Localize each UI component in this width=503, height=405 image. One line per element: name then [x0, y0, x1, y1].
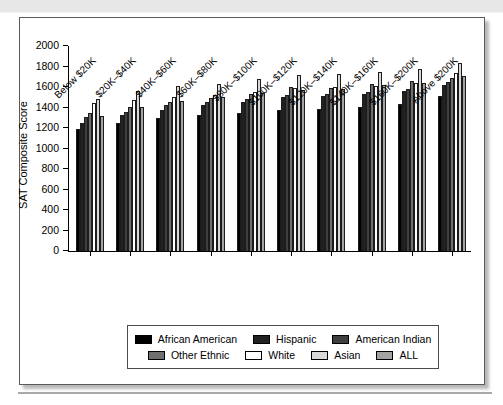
bar-group-20k-40k: $20K–$40K — [116, 46, 144, 251]
plot-area: Below $20K$20K–$40K$40K–$60K$60K–$80K$80… — [68, 46, 471, 252]
legend-swatch-icon — [135, 335, 152, 344]
legend-label: Other Ethnic — [171, 350, 229, 361]
bar-group-60k-80k: $60K–$80K — [197, 46, 225, 251]
legend-item-asian: Asian — [311, 350, 360, 361]
y-tick-label: 200 — [25, 225, 59, 236]
cropped-caption-strip — [0, 0, 503, 13]
bar-all — [341, 89, 345, 251]
bar-all — [221, 97, 225, 251]
legend-label: African American — [158, 334, 237, 345]
legend-item-other-ethnic: Other Ethnic — [148, 350, 229, 361]
legend-label: ALL — [399, 350, 418, 361]
x-tick-mark — [452, 252, 453, 256]
legend-row: Other EthnicWhiteAsianALL — [148, 350, 418, 361]
bar-all — [180, 101, 184, 251]
x-tick-mark — [130, 252, 131, 256]
bar-group-above-200k: Above $200K — [438, 46, 466, 251]
legend-swatch-icon — [376, 351, 393, 360]
legend-swatch-icon — [245, 351, 262, 360]
x-tick-mark — [372, 252, 373, 256]
legend-item-all: ALL — [376, 350, 418, 361]
x-tick-mark — [170, 252, 171, 256]
bar-groups: Below $20K$20K–$40K$40K–$60K$60K–$80K$80… — [69, 46, 471, 251]
bar-all — [140, 107, 144, 251]
bar-all — [462, 76, 466, 251]
legend-swatch-icon — [148, 351, 165, 360]
x-tick-mark — [291, 252, 292, 256]
bar-group-below-20k: Below $20K — [76, 46, 104, 251]
figure-panel: SAT Composite Score 02004006008001000120… — [19, 17, 485, 385]
legend-item-american-indian: American Indian — [332, 334, 431, 345]
y-tick-label: 1200 — [25, 122, 59, 133]
y-tick-label: 400 — [25, 204, 59, 215]
bar-all — [422, 83, 426, 251]
legend-label: White — [268, 350, 295, 361]
bar-group-100k-120k: $100K–$120K — [277, 46, 305, 251]
legend-label: Asian — [334, 350, 360, 361]
legend-row: African AmericanHispanicAmerican Indian — [135, 334, 432, 345]
legend-swatch-icon — [311, 351, 328, 360]
y-tick-label: 1000 — [25, 143, 59, 154]
y-tick-label: 0 — [25, 245, 59, 256]
y-tick-label: 1400 — [25, 102, 59, 113]
x-tick-mark — [90, 252, 91, 256]
x-tick-mark — [211, 252, 212, 256]
bar-group-120k-140k: $120K–$140K — [317, 46, 345, 251]
y-tick-label: 800 — [25, 163, 59, 174]
legend-item-african-american: African American — [135, 334, 237, 345]
bar-all — [100, 116, 104, 251]
legend-swatch-icon — [332, 335, 349, 344]
y-axis: 0200400600800100012001400160018002000 — [20, 46, 68, 251]
legend-box: African AmericanHispanicAmerican IndianO… — [127, 325, 439, 369]
bar-all — [382, 85, 386, 251]
legend-swatch-icon — [253, 335, 270, 344]
bar-all — [301, 90, 305, 251]
legend-item-hispanic: Hispanic — [253, 334, 316, 345]
y-tick-label: 600 — [25, 184, 59, 195]
x-tick-mark — [251, 252, 252, 256]
legend-label: Hispanic — [276, 334, 316, 345]
bottom-rule — [18, 392, 492, 394]
x-tick-mark — [331, 252, 332, 256]
y-tick-label: 1800 — [25, 61, 59, 72]
bar-group-40k-60k: $40K–$60K — [156, 46, 184, 251]
legend-label: American Indian — [355, 334, 431, 345]
bar-all — [261, 93, 265, 251]
bar-group-80k-100k: $80K–$100K — [237, 46, 265, 251]
y-tick-label: 2000 — [25, 40, 59, 51]
bar-group-160k-200k: $160K–$200K — [398, 46, 426, 251]
bar-group-140k-160k: $140K–$160K — [358, 46, 386, 251]
legend-item-white: White — [245, 350, 295, 361]
x-tick-mark — [412, 252, 413, 256]
